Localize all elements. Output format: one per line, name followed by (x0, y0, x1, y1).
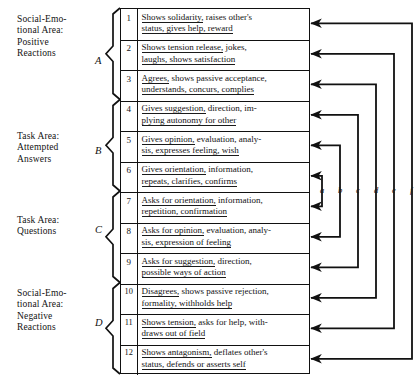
category-text: Asks for orientation, information,repeti… (138, 192, 310, 223)
category-lead: Shows tension release, (142, 42, 224, 53)
category-text: Agrees, shows passive acceptance,underst… (138, 70, 310, 101)
brace-a (106, 8, 120, 100)
connector-letter-e: e (392, 185, 396, 195)
area-label-d: Social-Emo- tional Area: Negative Reacti… (17, 288, 67, 334)
category-lead: Shows antagonism, (142, 347, 212, 358)
category-rest: information, (216, 195, 263, 205)
category-row-9: 9 Asks for suggestion, direction,possibl… (121, 253, 309, 284)
category-lead: Agrees, (142, 73, 170, 84)
category-text: Disagrees, shows passive rejection,forma… (138, 284, 310, 315)
category-row-2: 2 Shows tension release, jokes,laughs, s… (121, 40, 309, 71)
category-text: Asks for opinion, evaluation, analy-sis,… (138, 223, 310, 254)
category-rest: direction, im- (206, 103, 257, 113)
connector-a (311, 23, 412, 359)
area-label-a: Social-Emo- tional Area: Positive Reacti… (17, 14, 67, 60)
category-row-12: 12 Shows antagonism, deflates other'ssta… (121, 345, 309, 376)
category-table: 1 Shows solidarity, raises other'sstatus… (120, 8, 310, 374)
category-lead: Shows tension, (142, 317, 197, 328)
category-number: 8 (121, 223, 138, 254)
area-letter-c: C (95, 224, 102, 235)
brace-b (106, 100, 120, 192)
connector-letter-d: d (374, 185, 378, 195)
category-text: Gives orientation, information,repeats, … (138, 162, 310, 193)
category-number: 2 (121, 40, 138, 71)
area-letter-b: B (95, 145, 101, 156)
category-row-4: 4 Gives suggestion, direction, im-plying… (121, 101, 309, 132)
brace-c (106, 191, 120, 283)
figure-root: Social-Emo- tional Area: Positive Reacti… (0, 0, 420, 384)
category-rest: information, (206, 164, 253, 174)
connector-letter-a: a (320, 185, 324, 195)
category-row-11: 11 Shows tension, asks for help, with-dr… (121, 314, 309, 345)
category-row-3: 3 Agrees, shows passive acceptance,under… (121, 70, 309, 101)
category-line2: possible ways of action (142, 267, 226, 278)
category-rest: deflates other's (212, 347, 268, 357)
category-number: 7 (121, 192, 138, 223)
category-number: 9 (121, 253, 138, 284)
category-text: Shows tension, asks for help, with-draws… (138, 314, 310, 345)
category-line2: repetition, confirmation (142, 206, 227, 217)
area-letter-a: A (95, 55, 101, 66)
category-line2: understands, concurs, complies (142, 84, 254, 95)
category-lead: Asks for opinion, (142, 225, 205, 236)
category-lead: Asks for suggestion, (142, 256, 216, 267)
connector-letter-c: c (356, 185, 360, 195)
category-number: 3 (121, 70, 138, 101)
category-number: 10 (121, 284, 138, 315)
category-line2: formality, withholds help (142, 298, 233, 309)
category-number: 5 (121, 131, 138, 162)
category-rest: evaluation, analy- (195, 134, 262, 144)
category-rest: evaluation, analy- (204, 225, 271, 235)
category-rest: jokes, (223, 42, 247, 52)
category-text: Shows solidarity, raises other'sstatus, … (138, 9, 310, 40)
category-lead: Asks for orientation, (142, 195, 216, 206)
category-lead: Shows solidarity, (142, 12, 204, 23)
category-row-10: 10 Disagrees, shows passive rejection,fo… (121, 284, 309, 315)
category-number: 6 (121, 162, 138, 193)
area-letter-d: D (95, 317, 103, 328)
category-lead: Disagrees, (142, 286, 180, 297)
category-lead: Gives suggestion, (142, 103, 206, 114)
connector-d (311, 115, 358, 267)
category-rest: asks for help, with- (196, 317, 268, 327)
category-text: Shows tension release, jokes,laughs, sho… (138, 40, 310, 71)
category-text: Gives suggestion, direction, im-plying a… (138, 101, 310, 132)
connector-letter-b: b (338, 185, 342, 195)
category-text: Gives opinion, evaluation, analy-sis, ex… (138, 131, 310, 162)
area-label-c: Task Area: Questions (17, 215, 59, 238)
category-text: Asks for suggestion, direction,possible … (138, 253, 310, 284)
category-number: 1 (121, 9, 138, 40)
category-row-8: 8 Asks for opinion, evaluation, analy-si… (121, 223, 309, 254)
category-rest: direction, (215, 256, 252, 266)
category-row-7: 7 Asks for orientation, information,repe… (121, 192, 309, 223)
category-row-1: 1 Shows solidarity, raises other'sstatus… (121, 9, 309, 40)
category-line2: sis, expression of feeling (142, 237, 231, 248)
category-text: Shows antagonism, deflates other'sstatus… (138, 345, 310, 376)
category-line2: laughs, shows satisfaction (142, 54, 236, 65)
category-line2: draws out of field (142, 328, 206, 339)
connector-e (311, 145, 340, 237)
category-line2: status, gives help, reward (142, 23, 233, 34)
category-rest: shows passive rejection, (179, 286, 268, 296)
category-row-6: 6 Gives orientation, information,repeats… (121, 162, 309, 193)
category-rest: raises other's (203, 12, 252, 22)
category-rest: shows passive acceptance, (169, 73, 266, 83)
category-number: 4 (121, 101, 138, 132)
brace-d (106, 283, 120, 375)
area-label-b: Task Area: Attempted Answers (17, 131, 59, 165)
category-line2: status, defends or asserts self (142, 359, 246, 370)
category-row-5: 5 Gives opinion, evaluation, analy-sis, … (121, 131, 309, 162)
category-lead: Gives orientation, (142, 164, 207, 175)
category-line2: sis, expresses feeling, wish (142, 145, 239, 156)
category-number: 12 (121, 345, 138, 376)
connector-letter-f: f (410, 185, 412, 195)
category-line2: plying autonomy for other (142, 115, 237, 126)
category-lead: Gives opinion, (142, 134, 195, 145)
category-line2: repeats, clarifies, confirms (142, 176, 237, 187)
category-number: 11 (121, 314, 138, 345)
